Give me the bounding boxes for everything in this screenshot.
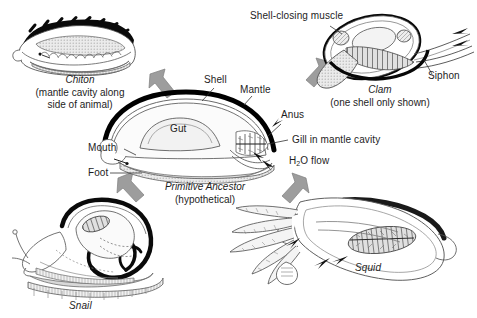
chiton-caption-line2: side of animal) <box>12 99 148 112</box>
squid-name: Squid <box>355 262 381 274</box>
mantle-label: Mantle <box>240 84 271 96</box>
shell-closing-muscle-label: Shell-closing muscle <box>250 10 343 22</box>
mouth-label: Mouth <box>88 142 116 154</box>
chiton-name: Chiton <box>12 74 148 87</box>
water-flow-subscript: 2 <box>296 160 300 167</box>
squid-illustration <box>230 198 456 285</box>
diagram-artwork <box>0 0 477 318</box>
chiton-caption: Chiton (mantle cavity along side of anim… <box>12 74 148 112</box>
water-flow-label: H2O flow <box>289 155 329 168</box>
shell-label: Shell <box>204 74 227 86</box>
snail-name: Snail <box>69 300 92 312</box>
chiton-caption-line1: (mantle cavity along <box>12 87 148 100</box>
snail-illustration <box>12 200 163 300</box>
anus-label: Anus <box>281 109 304 121</box>
clam-caption: Clam (one shell only shown) <box>310 84 450 109</box>
clam-caption-sub: (one shell only shown) <box>310 97 450 110</box>
mollusc-evolution-diagram: Chiton (mantle cavity along side of anim… <box>0 0 477 318</box>
siphon-label: Siphon <box>428 70 460 82</box>
chiton-illustration <box>13 18 135 76</box>
gut-label: Gut <box>170 123 186 135</box>
water-flow-rest: O flow <box>300 155 329 166</box>
gill-in-mantle-cavity-label: Gill in mantle cavity <box>292 134 380 146</box>
primitive-ancestor-sub: (hypothetical) <box>130 194 280 207</box>
primitive-ancestor-caption: Primitive Ancestor (hypothetical) <box>130 181 280 206</box>
primitive-ancestor-name: Primitive Ancestor <box>130 181 280 194</box>
clam-name: Clam <box>310 84 450 97</box>
arrow-to-squid <box>282 173 309 203</box>
foot-label: Foot <box>88 167 108 179</box>
